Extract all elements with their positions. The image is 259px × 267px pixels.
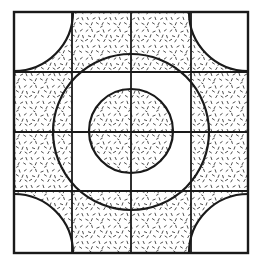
pattern-diagram [0,0,259,267]
figure-root [0,0,259,267]
